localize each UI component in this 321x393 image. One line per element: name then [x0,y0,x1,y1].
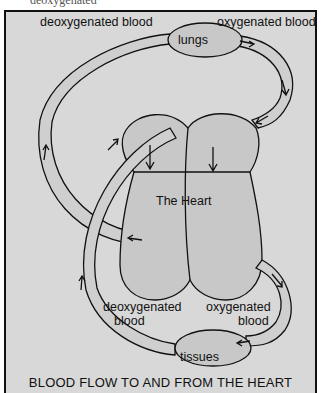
label-bottom-right-1: oxygenated [206,300,271,314]
label-bottom-right-2: blood [238,314,269,328]
label-bottom-left-1: deoxygenated [103,300,182,314]
label-bottom-left-2: blood [114,314,145,328]
label-top-left: deoxygenated blood [40,15,153,29]
label-top-right: oxygenated blood [217,15,316,29]
label-lungs: lungs [178,33,208,47]
arrow-up-heart-entry-icon [108,139,118,150]
label-heart: The Heart [156,194,212,208]
label-tissues: tissues [180,350,219,364]
vessel-from-lungs [238,36,293,128]
diagram-title: BLOOD FLOW TO AND FROM THE HEART [0,375,321,390]
